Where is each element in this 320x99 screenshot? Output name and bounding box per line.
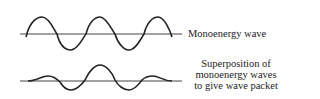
wave-packet bbox=[28, 65, 172, 90]
monoenergy-wave-label: Monoenergy wave bbox=[188, 28, 266, 39]
wave-packet-label-line: monoenergy waves bbox=[180, 69, 291, 80]
wave-packet-label-line: to give wave packet bbox=[180, 80, 291, 91]
wave-packet-label: Superposition of monoenergy waves to giv… bbox=[180, 58, 291, 91]
wave-packet-label-line: Superposition of bbox=[180, 58, 291, 69]
